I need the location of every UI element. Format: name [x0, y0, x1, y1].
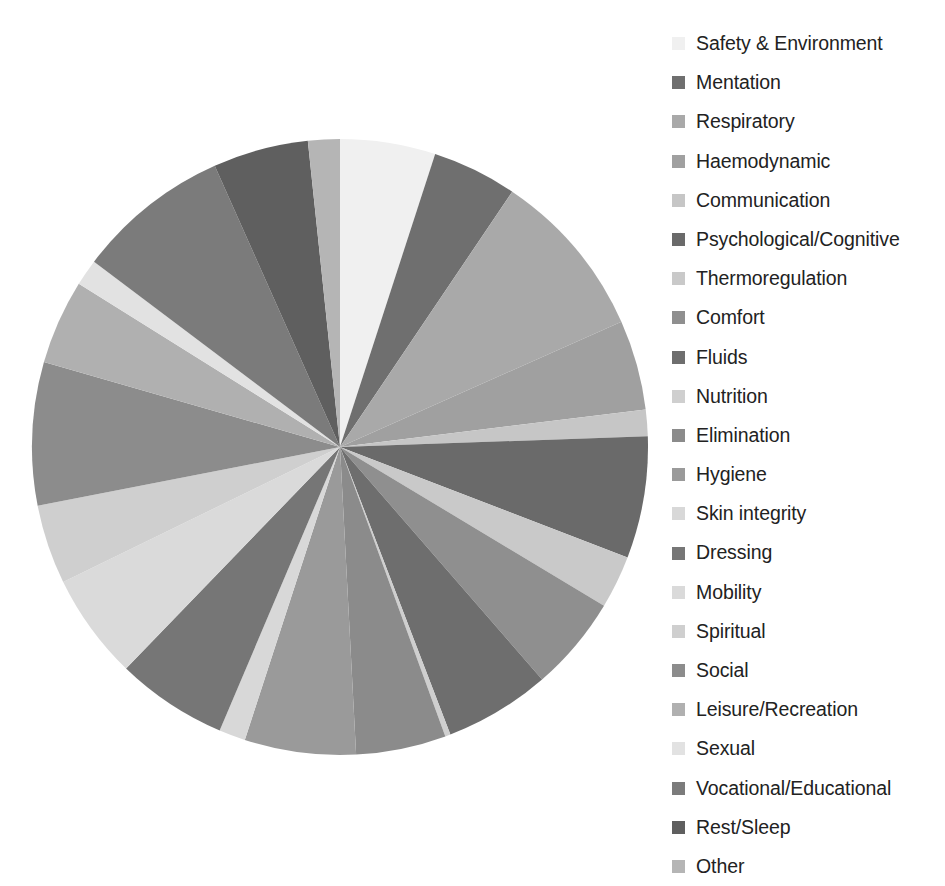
legend-item-label: Communication — [696, 181, 830, 220]
legend-item[interactable]: Vocational/Educational — [668, 769, 945, 808]
legend-item[interactable]: Communication — [668, 181, 945, 220]
pie-chart-svg — [0, 0, 670, 886]
legend-swatch-icon — [672, 115, 685, 128]
legend-item[interactable]: Mentation — [668, 63, 945, 102]
legend-swatch-icon — [672, 468, 685, 481]
legend-item[interactable]: Spiritual — [668, 612, 945, 651]
legend-item-label: Comfort — [696, 298, 765, 337]
legend-item-label: Mentation — [696, 63, 781, 102]
legend-item-label: Rest/Sleep — [696, 808, 790, 847]
legend-item-label: Psychological/Cognitive — [696, 220, 900, 259]
legend-item[interactable]: Thermoregulation — [668, 259, 945, 298]
legend-item-label: Dressing — [696, 533, 772, 572]
legend-item-label: Other — [696, 847, 744, 886]
legend-swatch-icon — [672, 742, 685, 755]
legend-swatch-icon — [672, 860, 685, 873]
legend-swatch-icon — [672, 37, 685, 50]
legend-item[interactable]: Rest/Sleep — [668, 808, 945, 847]
legend-swatch-icon — [672, 351, 685, 364]
pie-chart-area — [0, 0, 670, 886]
legend-swatch-icon — [672, 311, 685, 324]
chart-page: Safety & EnvironmentMentationRespiratory… — [0, 0, 945, 886]
legend-item[interactable]: Safety & Environment — [668, 24, 945, 63]
legend-item-label: Skin integrity — [696, 494, 806, 533]
legend-item[interactable]: Comfort — [668, 298, 945, 337]
legend-item-label: Safety & Environment — [696, 24, 883, 63]
legend-item[interactable]: Leisure/Recreation — [668, 690, 945, 729]
legend-item[interactable]: Elimination — [668, 416, 945, 455]
legend-item-label: Thermoregulation — [696, 259, 847, 298]
legend-item[interactable]: Skin integrity — [668, 494, 945, 533]
legend-item[interactable]: Nutrition — [668, 377, 945, 416]
legend-swatch-icon — [672, 664, 685, 677]
legend-swatch-icon — [672, 233, 685, 246]
legend-item-label: Mobility — [696, 573, 761, 612]
legend-item-label: Vocational/Educational — [696, 769, 891, 808]
legend-item-label: Fluids — [696, 338, 747, 377]
legend-item-label: Social — [696, 651, 749, 690]
legend-swatch-icon — [672, 821, 685, 834]
legend-swatch-icon — [672, 507, 685, 520]
legend-item-label: Haemodynamic — [696, 142, 830, 181]
legend-item[interactable]: Haemodynamic — [668, 142, 945, 181]
legend-item[interactable]: Social — [668, 651, 945, 690]
legend-swatch-icon — [672, 76, 685, 89]
legend-swatch-icon — [672, 390, 685, 403]
chart-legend: Safety & EnvironmentMentationRespiratory… — [668, 24, 945, 869]
legend-item-label: Leisure/Recreation — [696, 690, 858, 729]
legend-item[interactable]: Psychological/Cognitive — [668, 220, 945, 259]
legend-swatch-icon — [672, 782, 685, 795]
legend-item[interactable]: Fluids — [668, 338, 945, 377]
legend-item-label: Hygiene — [696, 455, 767, 494]
legend-item-label: Respiratory — [696, 102, 795, 141]
legend-swatch-icon — [672, 625, 685, 638]
legend-swatch-icon — [672, 547, 685, 560]
legend-item[interactable]: Respiratory — [668, 102, 945, 141]
legend-swatch-icon — [672, 155, 685, 168]
legend-swatch-icon — [672, 194, 685, 207]
pie-slice-group — [32, 139, 648, 755]
legend-swatch-icon — [672, 429, 685, 442]
legend-item[interactable]: Dressing — [668, 533, 945, 572]
legend-swatch-icon — [672, 586, 685, 599]
legend-item-label: Elimination — [696, 416, 790, 455]
legend-item-label: Sexual — [696, 729, 755, 768]
legend-item-label: Spiritual — [696, 612, 766, 651]
legend-item[interactable]: Other — [668, 847, 945, 886]
legend-swatch-icon — [672, 703, 685, 716]
legend-swatch-icon — [672, 272, 685, 285]
legend-item[interactable]: Hygiene — [668, 455, 945, 494]
legend-item-label: Nutrition — [696, 377, 768, 416]
legend-item[interactable]: Sexual — [668, 729, 945, 768]
legend-item[interactable]: Mobility — [668, 573, 945, 612]
